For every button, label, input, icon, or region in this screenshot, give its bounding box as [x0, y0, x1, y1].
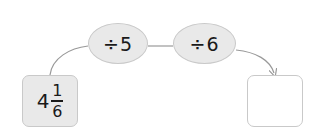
division-chain-diagram: 4 1 6 ÷5 ÷6: [0, 0, 312, 136]
divide-by-6-operation: ÷6: [173, 23, 236, 64]
whole-part: 4: [37, 89, 50, 113]
numerator: 1: [52, 82, 62, 99]
mixed-number: 4 1 6: [37, 82, 64, 120]
operation-label: ÷6: [189, 33, 219, 55]
start-connector: [50, 46, 88, 75]
fraction-part: 1 6: [51, 82, 63, 120]
operation-label: ÷5: [103, 33, 133, 55]
denominator: 6: [52, 103, 62, 120]
divide-by-5-operation: ÷5: [88, 23, 148, 64]
arrow-connector: [236, 50, 274, 73]
answer-box[interactable]: [247, 75, 303, 127]
start-number-box: 4 1 6: [22, 75, 78, 127]
